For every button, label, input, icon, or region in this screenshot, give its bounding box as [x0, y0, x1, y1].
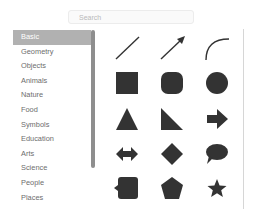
arrow-right-icon	[195, 102, 239, 138]
shape-grid	[105, 30, 240, 210]
square-icon	[105, 66, 149, 102]
pentagon-icon	[150, 172, 194, 208]
search-input[interactable]	[79, 11, 193, 23]
triangle-icon	[105, 102, 149, 138]
arrow-line-icon	[150, 30, 194, 66]
category-education[interactable]: Education	[13, 132, 91, 147]
category-symbols[interactable]: Symbols	[13, 118, 91, 133]
category-science[interactable]: Science	[13, 161, 91, 176]
star-icon	[195, 172, 239, 208]
category-objects[interactable]: Objects	[13, 59, 91, 74]
shape-arrow-right[interactable]	[195, 102, 239, 138]
shape-line[interactable]	[105, 30, 149, 66]
shape-pentagon[interactable]	[150, 172, 194, 208]
shape-right-triangle[interactable]	[150, 102, 194, 138]
shape-circle[interactable]	[195, 66, 239, 102]
category-basic[interactable]: Basic	[13, 30, 91, 45]
category-geometry[interactable]: Geometry	[13, 45, 91, 60]
shape-square[interactable]	[105, 66, 149, 102]
category-list: Basic Geometry Objects Animals Nature Fo…	[13, 30, 91, 218]
shape-rounded-square[interactable]	[150, 66, 194, 102]
callout-square-icon	[105, 172, 149, 208]
line-icon	[105, 30, 149, 66]
rounded-square-icon	[150, 66, 194, 102]
shape-star[interactable]	[195, 172, 239, 208]
shape-arrow-line[interactable]	[150, 30, 194, 66]
category-food[interactable]: Food	[13, 103, 91, 118]
category-places[interactable]: Places	[13, 191, 91, 206]
category-nature[interactable]: Nature	[13, 88, 91, 103]
shape-speech-bubble[interactable]	[195, 137, 239, 173]
shape-curve[interactable]	[195, 30, 239, 66]
shape-double-arrow[interactable]	[105, 137, 149, 173]
panel-divider	[243, 29, 244, 209]
search-field[interactable]	[68, 10, 194, 24]
diamond-icon	[150, 137, 194, 173]
shape-triangle[interactable]	[105, 102, 149, 138]
right-triangle-icon	[150, 102, 194, 138]
speech-bubble-icon	[195, 137, 239, 173]
category-people[interactable]: People	[13, 176, 91, 191]
double-arrow-icon	[105, 137, 149, 173]
circle-icon	[195, 66, 239, 102]
shape-diamond[interactable]	[150, 137, 194, 173]
shape-callout-square[interactable]	[105, 172, 149, 208]
category-animals[interactable]: Animals	[13, 74, 91, 89]
category-scrollbar[interactable]	[91, 30, 95, 168]
category-arts[interactable]: Arts	[13, 147, 91, 162]
curve-icon	[195, 30, 239, 66]
